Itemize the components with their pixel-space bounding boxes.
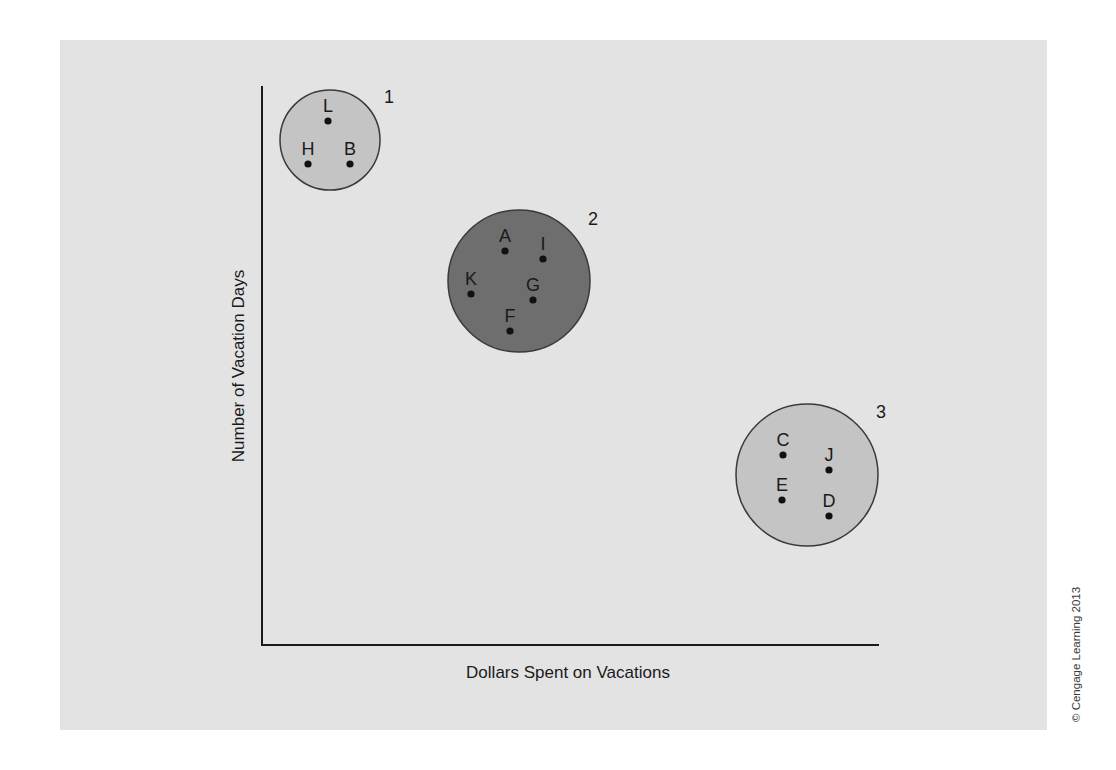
- cluster-diagram: 1LHB2AIKGF3CJED Dollars Spent on Vacatio…: [0, 0, 1116, 770]
- copyright-credit: © Cengage Learning 2013: [1070, 587, 1082, 722]
- data-point-dot: [324, 117, 331, 124]
- data-point-dot: [506, 327, 513, 334]
- data-point-dot: [825, 466, 832, 473]
- y-axis-title: Number of Vacation Days: [229, 270, 248, 462]
- x-axis-title: Dollars Spent on Vacations: [466, 663, 670, 682]
- data-point-label: C: [777, 430, 790, 450]
- data-point-dot: [467, 290, 474, 297]
- cluster-3: 3CJED: [736, 402, 886, 546]
- data-point-label: H: [302, 139, 315, 159]
- data-point-label: I: [540, 234, 545, 254]
- data-point-label: J: [825, 445, 834, 465]
- data-point-dot: [825, 512, 832, 519]
- data-point-label: A: [499, 226, 511, 246]
- data-point-label: G: [526, 275, 540, 295]
- data-point-dot: [501, 247, 508, 254]
- data-point-dot: [529, 296, 536, 303]
- data-point-label: D: [823, 491, 836, 511]
- cluster-number-label: 3: [876, 402, 886, 422]
- data-point-label: F: [505, 306, 516, 326]
- data-point-label: L: [323, 96, 333, 116]
- data-point-label: K: [465, 269, 477, 289]
- data-point-dot: [779, 451, 786, 458]
- data-point-dot: [539, 255, 546, 262]
- cluster-1: 1LHB: [280, 87, 394, 190]
- data-point-label: B: [344, 139, 356, 159]
- data-point-dot: [304, 160, 311, 167]
- clusters-layer: 1LHB2AIKGF3CJED: [280, 87, 886, 546]
- data-point-dot: [346, 160, 353, 167]
- cluster-2: 2AIKGF: [448, 209, 598, 352]
- cluster-circle: [736, 404, 878, 546]
- data-point-label: E: [776, 475, 788, 495]
- cluster-number-label: 1: [384, 87, 394, 107]
- data-point-dot: [778, 496, 785, 503]
- cluster-number-label: 2: [588, 209, 598, 229]
